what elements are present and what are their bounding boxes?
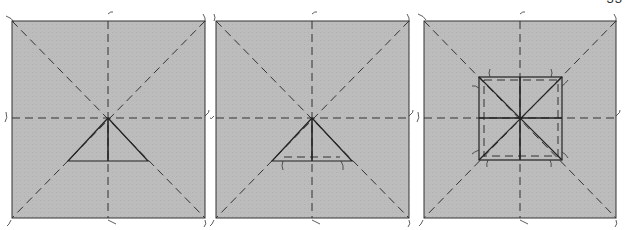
panel-3 xyxy=(417,12,620,227)
panel-2 xyxy=(210,12,413,227)
panel-1 xyxy=(5,12,209,227)
square-figure xyxy=(479,77,562,160)
fold-diagram xyxy=(0,0,629,230)
